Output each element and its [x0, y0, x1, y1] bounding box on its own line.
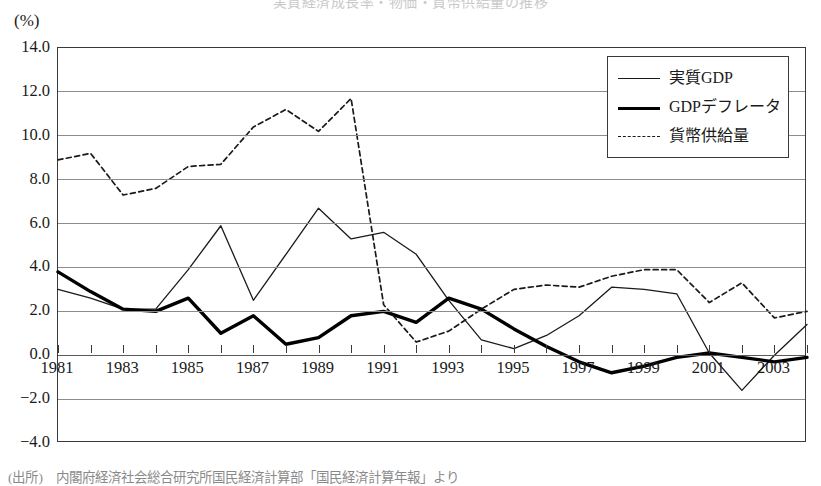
x-tick: [58, 345, 59, 353]
x-tick-label: 1987: [222, 360, 282, 377]
x-tick-label: 1999: [613, 360, 673, 377]
x-tick: [156, 345, 157, 353]
x-tick-label: 1995: [483, 360, 543, 377]
gridline: [58, 179, 805, 180]
x-tick: [253, 345, 254, 353]
y-tick-label: −2.0: [0, 390, 50, 407]
x-tick-label: 1993: [418, 360, 478, 377]
x-tick: [807, 345, 808, 353]
x-tick: [677, 345, 678, 353]
legend-line-icon-gdp-deflator: [618, 100, 660, 114]
legend-item-money-supply: 貨幣供給量: [618, 121, 778, 150]
x-tick: [449, 345, 450, 353]
x-tick-label: 2003: [743, 360, 803, 377]
legend-label-gdp-deflator: GDPデフレータ: [669, 99, 781, 115]
x-tick: [774, 345, 775, 353]
x-tick: [123, 345, 124, 353]
x-tick: [286, 345, 287, 353]
x-tick-label: 1983: [92, 360, 152, 377]
gridline: [58, 267, 805, 268]
x-tick: [644, 345, 645, 353]
legend-line-icon-money-supply: [618, 129, 660, 143]
x-tick: [91, 345, 92, 353]
x-tick-label: 2001: [678, 360, 738, 377]
x-tick: [514, 345, 515, 353]
x-tick-label: 1981: [27, 360, 87, 377]
x-tick: [742, 345, 743, 353]
y-tick-label: 4.0: [0, 258, 50, 275]
y-tick-label: 14.0: [0, 39, 50, 56]
y-tick-label: 12.0: [0, 83, 50, 100]
x-tick: [188, 345, 189, 353]
legend-label-money-supply: 貨幣供給量: [669, 128, 749, 144]
y-tick-label: 8.0: [0, 171, 50, 188]
zero-axis-line: [58, 355, 805, 356]
x-tick-label: 1997: [548, 360, 608, 377]
x-tick: [481, 345, 482, 353]
x-tick: [221, 345, 222, 353]
x-tick: [416, 345, 417, 353]
y-tick-label: 2.0: [0, 302, 50, 319]
x-tick-label: 1989: [288, 360, 348, 377]
x-tick: [351, 345, 352, 353]
chart-legend: 実質GDP GDPデフレータ 貨幣供給量: [607, 56, 789, 158]
x-tick-label: 1985: [157, 360, 217, 377]
x-tick: [709, 345, 710, 353]
x-tick: [319, 345, 320, 353]
legend-item-real-gdp: 実質GDP: [618, 63, 778, 92]
legend-line-icon-real-gdp: [618, 71, 660, 85]
x-tick: [384, 345, 385, 353]
gridline: [58, 311, 805, 312]
gridline: [58, 223, 805, 224]
source-note: (出所) 内閣府経済社会総合研究所国民経済計算部「国民経済計算年報」より: [8, 466, 459, 486]
y-tick-label: 6.0: [0, 215, 50, 232]
x-tick: [546, 345, 547, 353]
y-tick-label: 10.0: [0, 127, 50, 144]
y-tick-label: −4.0: [0, 434, 50, 451]
x-tick-label: 1991: [353, 360, 413, 377]
legend-label-real-gdp: 実質GDP: [669, 70, 733, 86]
x-tick: [579, 345, 580, 353]
legend-item-gdp-deflator: GDPデフレータ: [618, 92, 778, 121]
gridline: [58, 399, 805, 400]
x-tick: [612, 345, 613, 353]
